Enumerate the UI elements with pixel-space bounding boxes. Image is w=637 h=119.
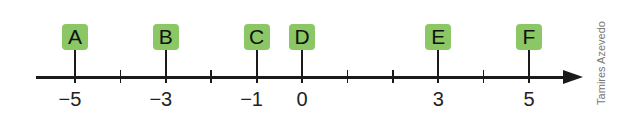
point-label-b: B bbox=[153, 24, 179, 50]
point-label-d: D bbox=[289, 24, 315, 50]
tick-label: −1 bbox=[232, 88, 272, 111]
point-label-c: C bbox=[244, 24, 270, 50]
tick-mark bbox=[392, 70, 394, 83]
point-stem bbox=[165, 50, 167, 83]
tick-mark bbox=[347, 70, 349, 83]
tick-label: 0 bbox=[282, 88, 322, 111]
tick-mark bbox=[210, 70, 212, 83]
tick-mark bbox=[483, 70, 485, 83]
tick-mark bbox=[120, 70, 122, 83]
image-credit: Tamires Azevedo bbox=[595, 13, 607, 113]
point-stem bbox=[528, 50, 530, 83]
tick-label: 5 bbox=[509, 88, 549, 111]
point-label-a: A bbox=[62, 24, 88, 50]
number-line-diagram: −5−3−1035 ABCDEF Tamires Azevedo bbox=[0, 0, 637, 119]
point-stem bbox=[437, 50, 439, 83]
point-stem bbox=[256, 50, 258, 83]
point-label-e: E bbox=[425, 24, 451, 50]
arrow-head-icon bbox=[563, 70, 583, 84]
tick-label: 3 bbox=[418, 88, 458, 111]
tick-label: −5 bbox=[50, 88, 90, 111]
tick-label: −3 bbox=[141, 88, 181, 111]
point-stem bbox=[74, 50, 76, 83]
point-label-f: F bbox=[516, 24, 542, 50]
point-stem bbox=[301, 50, 303, 83]
